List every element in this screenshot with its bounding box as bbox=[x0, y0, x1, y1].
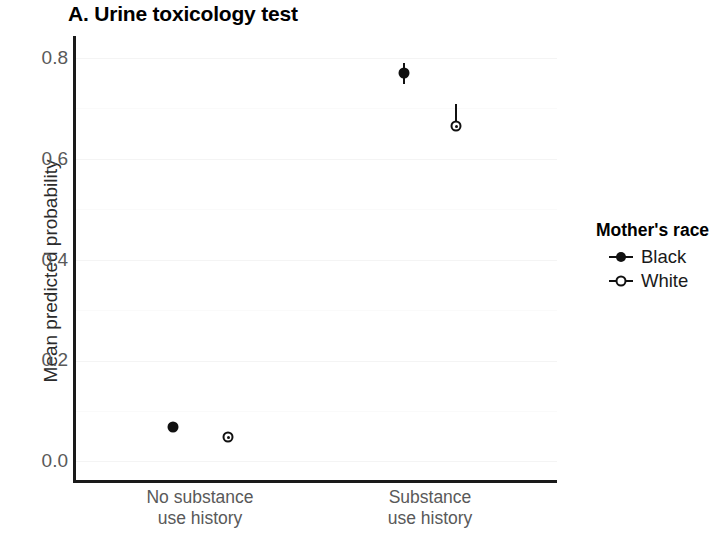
x-tick-line2: use history bbox=[90, 508, 310, 529]
legend-title: Mother's race bbox=[596, 220, 723, 241]
y-tick-0.6: 0.6 bbox=[10, 148, 68, 170]
chart-figure: A. Urine toxicology test Mean predicted … bbox=[0, 0, 723, 533]
data-point-black-substance bbox=[399, 68, 410, 79]
legend-item-black: Black bbox=[608, 245, 723, 269]
x-axis-line bbox=[73, 480, 557, 483]
y-tick-0.4: 0.4 bbox=[10, 249, 68, 271]
gridline-minor-0.7 bbox=[75, 108, 557, 109]
y-tick-0.0: 0.0 bbox=[10, 450, 68, 472]
legend-label-black: Black bbox=[641, 246, 686, 268]
legend: Mother's race Black White bbox=[596, 220, 723, 293]
gridline-minor-0.1 bbox=[75, 411, 557, 412]
x-tick-line1: No substance bbox=[90, 487, 310, 508]
x-tick-line2: use history bbox=[320, 508, 540, 529]
gridline-major-0.0 bbox=[75, 461, 557, 462]
data-point-white-no-substance bbox=[223, 432, 234, 443]
gridline-major-0.6 bbox=[75, 159, 557, 160]
x-tick-substance-use-history: Substance use history bbox=[320, 487, 540, 529]
gridline-major-0.4 bbox=[75, 260, 557, 261]
chart-title: A. Urine toxicology test bbox=[68, 2, 298, 26]
y-tick-0.2: 0.2 bbox=[10, 349, 68, 371]
y-axis-tick-labels: 0.8 0.6 0.4 0.2 0.0 bbox=[6, 0, 68, 533]
gridline-major-0.2 bbox=[75, 361, 557, 362]
legend-marker-open-circle-icon bbox=[608, 270, 634, 292]
plot-panel bbox=[75, 36, 557, 482]
data-point-black-no-substance bbox=[168, 422, 179, 433]
y-tick-0.8: 0.8 bbox=[10, 47, 68, 69]
legend-marker-filled-circle-icon bbox=[608, 246, 634, 268]
data-point-white-substance bbox=[451, 121, 462, 132]
gridline-minor-0.3 bbox=[75, 310, 557, 311]
gridline-minor-0.5 bbox=[75, 209, 557, 210]
gridline-major-0.8 bbox=[75, 58, 557, 59]
x-tick-line1: Substance bbox=[320, 487, 540, 508]
legend-label-white: White bbox=[641, 270, 688, 292]
x-tick-no-substance-use-history: No substance use history bbox=[90, 487, 310, 529]
legend-item-white: White bbox=[608, 269, 723, 293]
y-axis-line bbox=[73, 36, 76, 483]
